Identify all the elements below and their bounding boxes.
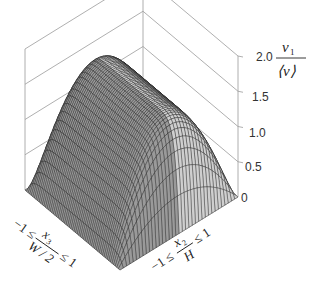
z-axis-label: v 1 ⟨v⟩ (276, 39, 306, 79)
labels-layer: 2.0 1.5 1.0 0.5 0 v 1 ⟨v⟩ −1 ≤ x 3 W / 2… (0, 0, 312, 286)
svg-text:≤ 1: ≤ 1 (58, 248, 80, 270)
surface-plot: 2.0 1.5 1.0 0.5 0 v 1 ⟨v⟩ −1 ≤ x 3 W / 2… (0, 0, 312, 286)
svg-text:≤ 1: ≤ 1 (190, 224, 212, 246)
svg-text:v: v (282, 39, 289, 55)
svg-text:1: 1 (290, 47, 295, 57)
svg-text:W / 2: W / 2 (26, 238, 57, 266)
z-tick-0.5: 0.5 (245, 160, 262, 174)
z-tick-1.0: 1.0 (249, 126, 266, 140)
svg-text:⟨v⟩: ⟨v⟩ (277, 63, 296, 79)
x-axis-label: −1 ≤ x 3 W / 2 ≤ 1 (5, 209, 84, 278)
z-tick-0: 0 (241, 191, 248, 205)
y-axis-label: −1 ≤ x 2 H ≤ 1 (143, 218, 218, 283)
z-tick-2.0: 2.0 (256, 50, 273, 64)
svg-text:−1 ≤: −1 ≤ (148, 248, 176, 274)
z-tick-1.5: 1.5 (252, 90, 269, 104)
